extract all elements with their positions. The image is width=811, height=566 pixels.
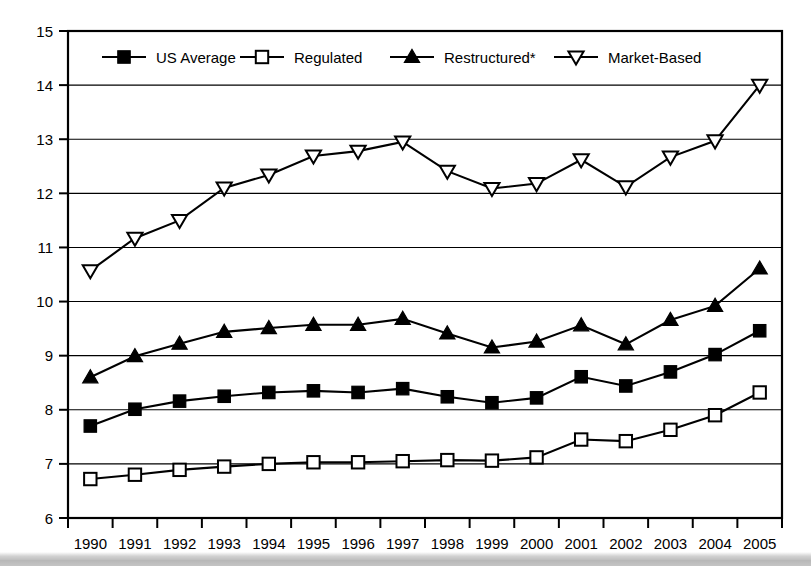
y-tick-label-12: 12 <box>36 185 53 202</box>
data-point-1994 <box>263 386 275 398</box>
x-tick-label-1994: 1994 <box>252 535 285 552</box>
data-point-1994 <box>263 458 275 470</box>
data-point-1996 <box>352 456 364 468</box>
data-point-1995 <box>307 385 319 397</box>
data-point-2005 <box>753 386 765 398</box>
y-tick-label-6: 6 <box>45 510 53 527</box>
x-tick-label-2000: 2000 <box>520 535 553 552</box>
x-tick-label-1998: 1998 <box>431 535 464 552</box>
x-tick-label-2004: 2004 <box>698 535 731 552</box>
data-point-1997 <box>396 455 408 467</box>
data-point-1998 <box>441 454 453 466</box>
data-point-1995 <box>307 456 319 468</box>
data-point-1993 <box>218 460 230 472</box>
legend-item-market-based[interactable]: Market-Based <box>554 49 701 66</box>
x-tick-label-2003: 2003 <box>654 535 687 552</box>
data-point-1997 <box>396 382 408 394</box>
legend-item-regulated[interactable]: Regulated <box>240 49 362 66</box>
data-point-1992 <box>173 464 185 476</box>
legend-label: Regulated <box>294 49 362 66</box>
legend-item-restructured[interactable]: Restructured* <box>390 49 536 66</box>
y-tick-label-8: 8 <box>45 401 53 418</box>
data-point-2000 <box>530 451 542 463</box>
legend-label: Restructured* <box>444 49 536 66</box>
data-point-1991 <box>129 469 141 481</box>
x-tick-label-1990: 1990 <box>74 535 107 552</box>
data-point-1999 <box>486 454 498 466</box>
data-point-2004 <box>709 348 721 360</box>
data-point-2000 <box>530 392 542 404</box>
data-point-1998 <box>441 391 453 403</box>
data-point-1993 <box>218 390 230 402</box>
y-tick-label-9: 9 <box>45 347 53 364</box>
x-tick-label-1991: 1991 <box>118 535 151 552</box>
data-point-2005 <box>753 325 765 337</box>
x-tick-label-2001: 2001 <box>565 535 598 552</box>
legend-label: US Average <box>156 49 236 66</box>
legend-item-us-average[interactable]: US Average <box>102 49 236 66</box>
x-tick-label-2005: 2005 <box>743 535 776 552</box>
data-point-2002 <box>620 435 632 447</box>
y-tick-label-15: 15 <box>36 23 53 40</box>
y-tick-label-13: 13 <box>36 131 53 148</box>
scan-artifact-band-lower <box>0 560 811 566</box>
legend-label: Market-Based <box>608 49 701 66</box>
data-point-2001 <box>575 433 587 445</box>
data-point-1990 <box>84 473 96 485</box>
y-tick-label-11: 11 <box>37 239 53 256</box>
data-point-legend-1 <box>256 51 268 63</box>
chart-canvas: 6789101112131415 19901991199219931994199… <box>0 0 811 566</box>
data-point-1992 <box>173 395 185 407</box>
y-tick-label-14: 14 <box>36 77 53 94</box>
data-point-2001 <box>575 371 587 383</box>
x-tick-label-1995: 1995 <box>297 535 330 552</box>
y-tick-label-7: 7 <box>45 455 53 472</box>
data-point-2003 <box>664 366 676 378</box>
data-point-2003 <box>664 424 676 436</box>
data-point-2004 <box>709 409 721 421</box>
x-tick-label-2002: 2002 <box>609 535 642 552</box>
data-point-1990 <box>84 420 96 432</box>
x-tick-label-1996: 1996 <box>341 535 374 552</box>
x-tick-label-1993: 1993 <box>208 535 241 552</box>
data-point-legend-0 <box>118 51 130 63</box>
line-chart: 6789101112131415 19901991199219931994199… <box>0 0 811 566</box>
x-tick-label-1999: 1999 <box>475 535 508 552</box>
data-point-2002 <box>620 380 632 392</box>
y-tick-label-10: 10 <box>36 293 53 310</box>
data-point-1996 <box>352 386 364 398</box>
data-point-1999 <box>486 397 498 409</box>
data-point-1991 <box>129 403 141 415</box>
x-tick-label-1997: 1997 <box>386 535 419 552</box>
x-tick-label-1992: 1992 <box>163 535 196 552</box>
